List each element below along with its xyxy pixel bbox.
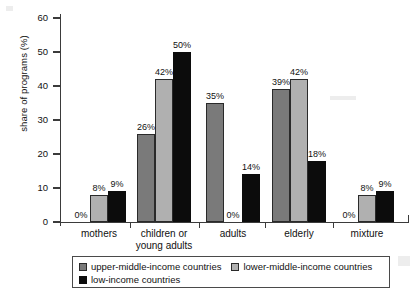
- scan-artifact: [6, 6, 13, 11]
- bar: [358, 195, 376, 222]
- legend-label-upper-middle-income: upper-middle-income countries: [91, 261, 221, 272]
- bar-value-label: 35%: [198, 91, 232, 101]
- bar-chart: share of programs (%) 0102030405060 0%8%…: [0, 0, 420, 294]
- bar: [272, 89, 290, 222]
- bar: [155, 79, 173, 222]
- legend-item-lower-middle-income[interactable]: lower-middle-income countries: [231, 261, 372, 272]
- y-axis-tick-label: 60: [8, 12, 48, 23]
- scan-artifact: [330, 96, 356, 100]
- bar: [90, 195, 108, 222]
- y-axis-line: [60, 14, 61, 226]
- bar: [108, 191, 126, 222]
- y-axis-tick: [53, 119, 60, 120]
- scan-artifact: [398, 256, 410, 266]
- legend-item-upper-middle-income[interactable]: upper-middle-income countries: [79, 261, 221, 272]
- bar-value-label: 14%: [234, 162, 268, 172]
- legend-row-1: upper-middle-income countries lower-midd…: [79, 261, 382, 272]
- bar-value-label: 18%: [300, 149, 334, 159]
- bar-value-label: 50%: [165, 40, 199, 50]
- black-swatch-icon: [79, 276, 87, 284]
- y-axis-tick-label: 10: [8, 182, 48, 193]
- y-axis-tick: [53, 85, 60, 86]
- dark-gray-swatch-icon: [79, 263, 87, 271]
- bar: [137, 134, 155, 222]
- legend: upper-middle-income countries lower-midd…: [72, 256, 390, 288]
- bar: [376, 191, 394, 222]
- legend-item-low-income[interactable]: low-income countries: [79, 274, 180, 285]
- bar-value-label: 42%: [282, 67, 316, 77]
- bar-value-label: 9%: [100, 179, 134, 189]
- light-gray-swatch-icon: [231, 263, 239, 271]
- bar: [308, 161, 326, 222]
- x-axis-category-label: mixture: [312, 228, 420, 240]
- y-axis-tick-label: 30: [8, 114, 48, 125]
- bar-value-label: 9%: [368, 179, 402, 189]
- bar: [206, 103, 224, 222]
- y-axis-tick: [53, 153, 60, 154]
- y-axis-tick: [53, 17, 60, 18]
- y-axis-tick-label: 50: [8, 46, 48, 57]
- y-axis-tick-label: 40: [8, 80, 48, 91]
- legend-row-2: low-income countries: [79, 274, 190, 285]
- category-label-line: mixture: [312, 228, 420, 240]
- bar: [242, 174, 260, 222]
- legend-label-low-income: low-income countries: [91, 274, 180, 285]
- y-axis-tick: [53, 187, 60, 188]
- category-label-line: young adults: [109, 240, 219, 252]
- bar: [173, 52, 191, 222]
- y-axis-tick-label: 20: [8, 148, 48, 159]
- y-axis-tick-label: 0: [8, 216, 48, 227]
- y-axis-tick: [53, 221, 60, 222]
- legend-label-lower-middle-income: lower-middle-income countries: [243, 261, 372, 272]
- y-axis-tick: [53, 51, 60, 52]
- x-axis-end-tick: [408, 215, 409, 223]
